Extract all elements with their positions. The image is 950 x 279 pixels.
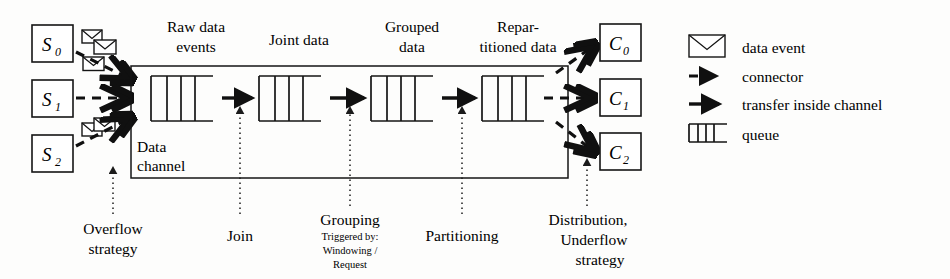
source-label-s0: S xyxy=(42,34,52,55)
stage-header-repartitioned-line2: titioned data xyxy=(479,38,556,55)
annotation-partitioning: Partitioning xyxy=(425,227,498,244)
stage-header-repartitioned-line1: Repar- xyxy=(497,18,539,35)
stage-header-joint: Joint data xyxy=(269,31,329,48)
queue-raw-data-events xyxy=(151,76,213,121)
queue-repartitioned-data xyxy=(482,76,544,121)
consumer-node-c2[interactable]: C 2 xyxy=(600,133,641,170)
annotation-grouping: Grouping Triggered by: Windowing / Reque… xyxy=(320,211,380,270)
annotation-distribution: Distribution, Underflow strategy xyxy=(549,211,629,268)
consumer-node-c1[interactable]: C 1 xyxy=(600,79,641,116)
diagram-canvas: S 0 S 1 S 2 xyxy=(0,0,950,279)
queue-icon xyxy=(689,124,727,142)
source-sub-s1: 1 xyxy=(55,100,61,114)
annotation-grouping-small1: Triggered by: xyxy=(321,231,378,242)
consumer-node-c0[interactable]: C 0 xyxy=(600,24,641,61)
stage-header-raw-line1: Raw data xyxy=(167,18,225,35)
legend-label-transfer: transfer inside channel xyxy=(742,96,882,113)
queue-joint-data xyxy=(259,76,321,121)
legend-row-transfer: transfer inside channel xyxy=(689,96,882,113)
annotation-grouping-small3: Request xyxy=(333,259,367,270)
stage-header-grouped-line1: Grouped xyxy=(385,18,439,35)
consumer-sub-c0: 0 xyxy=(623,44,629,58)
legend-row-connector: connector xyxy=(689,68,804,85)
source-sub-s2: 2 xyxy=(55,155,61,169)
legend-label-data-event: data event xyxy=(742,39,806,56)
annotation-distribution-line3: strategy xyxy=(575,251,624,268)
legend-row-data-event: data event xyxy=(689,35,806,57)
stage-header-grouped-line2: data xyxy=(399,38,425,55)
source-label-s2: S xyxy=(42,144,52,165)
consumer-label-c0: C xyxy=(609,33,622,54)
annotation-distribution-line1: Distribution, xyxy=(549,211,628,228)
source-node-s1[interactable]: S 1 xyxy=(32,80,73,117)
consumer-label-c1: C xyxy=(609,88,622,109)
stage-header-repartitioned: Repar- titioned data xyxy=(479,18,556,55)
annotation-overflow-line2: strategy xyxy=(88,240,137,257)
legend-row-queue: queue xyxy=(689,124,779,143)
stage-header-grouped: Grouped data xyxy=(385,18,439,55)
source-sub-s0: 0 xyxy=(55,45,61,59)
annotation-overflow-line1: Overflow xyxy=(83,220,143,237)
annotation-join-line1: Join xyxy=(227,227,253,244)
stage-header-raw-line2: events xyxy=(176,38,216,55)
annotation-grouping-line1: Grouping xyxy=(320,211,380,228)
connector-channel-to-c2 xyxy=(556,122,592,150)
channel-name-line2: channel xyxy=(137,157,185,174)
source-node-s2[interactable]: S 2 xyxy=(32,135,73,172)
queue-grouped-data xyxy=(371,76,433,121)
annotation-grouping-small2: Windowing / xyxy=(323,245,378,256)
diagram-svg: S 0 S 1 S 2 xyxy=(0,0,950,279)
connector-channel-to-c0 xyxy=(556,47,592,73)
data-channel-box xyxy=(131,66,568,178)
consumer-sub-c2: 2 xyxy=(623,153,629,167)
source-label-s1: S xyxy=(42,89,52,110)
legend-label-queue: queue xyxy=(742,126,779,143)
annotation-distribution-line2: Underflow xyxy=(560,231,628,248)
envelope-icon-s0-b xyxy=(94,40,116,54)
annotation-join: Join xyxy=(227,227,253,244)
legend-label-connector: connector xyxy=(742,68,804,85)
channel-name-line1: Data xyxy=(137,138,166,155)
annotation-overflow-strategy: Overflow strategy xyxy=(83,220,143,257)
consumer-label-c2: C xyxy=(609,142,622,163)
annotation-partitioning-line1: Partitioning xyxy=(425,227,498,244)
stage-header-joint-line1: Joint data xyxy=(269,31,329,48)
source-node-s0[interactable]: S 0 xyxy=(32,25,73,62)
stage-header-raw: Raw data events xyxy=(167,18,225,55)
consumer-sub-c1: 1 xyxy=(623,99,629,113)
